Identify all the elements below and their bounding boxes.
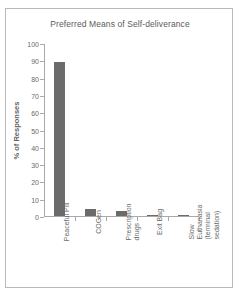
- chart-figure-frame: Preferred Means of Self-deliverance % of…: [5, 8, 233, 288]
- y-axis-title-label: % of Responses: [13, 102, 22, 160]
- y-tick: [40, 79, 44, 80]
- y-tick: [40, 44, 44, 45]
- x-tick: [75, 217, 76, 221]
- x-axis-label-line: Euthanasia: [196, 204, 204, 239]
- y-tick-label: 80: [31, 75, 39, 82]
- y-tick: [40, 182, 44, 183]
- y-tick: [40, 96, 44, 97]
- y-tick-label: 40: [31, 144, 39, 151]
- x-axis-label-line: Exit Bag: [157, 209, 165, 235]
- y-tick-label: 60: [31, 110, 39, 117]
- x-axis-label: Exit Bag: [147, 220, 158, 228]
- x-axis-label: COGen: [85, 220, 96, 228]
- x-axis-label-line: Prescription: [126, 204, 134, 241]
- x-axis-label: SlowEuthanasia(terminalsedation): [178, 220, 189, 253]
- y-tick-label: 0: [35, 214, 39, 221]
- y-tick: [40, 200, 44, 201]
- y-tick-label: 20: [31, 179, 39, 186]
- x-axis-label-line: COGen: [95, 210, 103, 234]
- y-tick: [40, 148, 44, 149]
- y-axis-line: [44, 44, 45, 217]
- x-axis-label-line: sedation): [212, 204, 220, 239]
- x-axis-label: Peaceful Pill: [54, 220, 65, 228]
- plot-area: 0102030405060708090100 Peaceful PillCOGe…: [44, 44, 199, 217]
- y-tick-label: 90: [31, 58, 39, 65]
- y-tick-label: 70: [31, 92, 39, 99]
- x-axis-label-line: (terminal: [204, 204, 212, 239]
- y-tick-label: 100: [27, 41, 39, 48]
- x-axis-label: Prescriptiondrugs: [116, 220, 127, 236]
- y-tick: [40, 113, 44, 114]
- x-tick: [106, 217, 107, 221]
- y-tick-label: 30: [31, 162, 39, 169]
- y-tick: [40, 61, 44, 62]
- x-axis-label-line: drugs: [134, 204, 142, 241]
- bar: [54, 62, 65, 216]
- chart-title: Preferred Means of Self-deliverance: [6, 19, 234, 29]
- y-tick-label: 10: [31, 196, 39, 203]
- y-tick: [40, 131, 44, 132]
- y-tick-label: 50: [31, 127, 39, 134]
- x-tick: [168, 217, 169, 221]
- y-tick: [40, 165, 44, 166]
- x-axis-label-line: Slow: [188, 204, 196, 239]
- y-axis-title: % of Responses: [11, 44, 23, 217]
- y-tick: [40, 217, 44, 218]
- x-axis-label-line: Peaceful Pill: [64, 203, 72, 242]
